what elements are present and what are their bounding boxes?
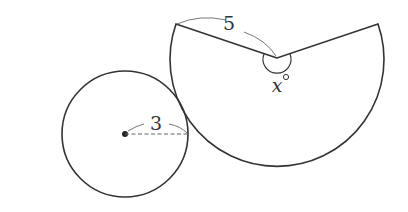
- radius-bracket-left: [128, 124, 144, 131]
- degree-symbol-icon: [283, 74, 288, 79]
- cone-net-diagram: 5 x 3: [0, 0, 408, 212]
- radius-label: 3: [150, 112, 162, 134]
- angle-label: x: [272, 74, 283, 96]
- side-length-label: 5: [223, 12, 235, 34]
- angle-marker-arc: [263, 54, 291, 73]
- radius-bracket-right: [169, 124, 187, 133]
- side-length-bracket: [177, 18, 226, 24]
